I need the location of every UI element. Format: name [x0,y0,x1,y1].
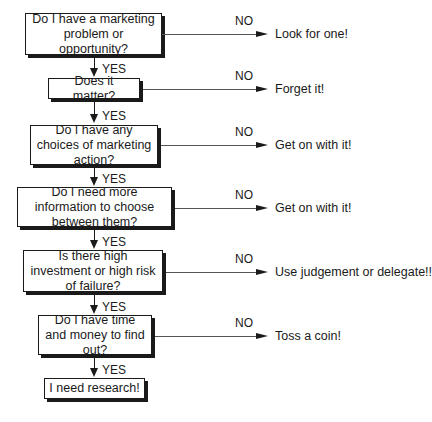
no-result-5: Use judgement or delegate!! [275,265,432,279]
question-text-5: Is there high investment or high risk of… [28,249,158,294]
no-label-5: NO [235,252,253,266]
question-text-2: Does it matter? [53,74,135,104]
arrow-right-icon [256,269,268,275]
yes-label-4: YES [102,235,126,249]
yes-label-2: YES [102,109,126,123]
question-box-4: Do I need more information to choose bet… [17,187,172,227]
final-box: I need research! [44,378,145,399]
question-box-5: Is there high investment or high risk of… [23,250,163,292]
no-connector-4 [175,208,264,209]
final-text: I need research! [49,381,139,396]
arrow-right-icon [256,142,268,148]
no-connector-5 [166,272,264,273]
arrow-right-icon [256,31,268,37]
no-result-6: Toss a coin! [275,329,341,343]
no-label-2: NO [235,69,253,83]
no-result-1: Look for one! [275,27,348,41]
no-connector-6 [155,336,264,337]
question-text-3: Do I have any choices of marketing actio… [35,123,153,168]
arrow-down-icon [90,368,98,377]
question-box-6: Do I have time and money to find out? [38,315,152,355]
no-label-1: NO [235,14,253,28]
no-result-2: Forget it! [275,82,324,96]
arrow-right-icon [256,333,268,339]
question-text-4: Do I need more information to choose bet… [22,185,167,230]
arrow-right-icon [256,86,268,92]
arrow-right-icon [256,205,268,211]
no-connector-2 [143,89,264,90]
no-connector-3 [161,145,264,146]
question-box-3: Do I have any choices of marketing actio… [30,125,158,165]
question-text-1: Do I have a marketing problem or opportu… [30,12,157,57]
no-label-4: NO [235,188,253,202]
no-label-3: NO [235,125,253,139]
question-box-2: Does it matter? [48,78,140,99]
no-result-3: Get on with it! [275,138,351,152]
no-connector-1 [162,34,264,35]
yes-label-6: YES [102,363,126,377]
no-label-6: NO [235,316,253,330]
question-text-6: Do I have time and money to find out? [43,313,147,358]
question-box-1: Do I have a marketing problem or opportu… [25,13,162,55]
no-result-4: Get on with it! [275,201,351,215]
